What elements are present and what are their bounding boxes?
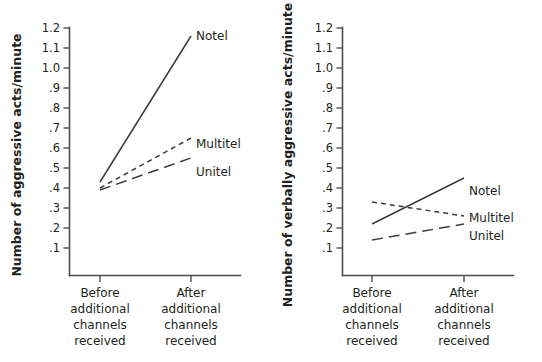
right-label-multitel: Multitel xyxy=(469,211,514,225)
panel-verbal-aggression: Number of verbally aggressive acts/minut… xyxy=(271,0,542,362)
left-xcat-before-line1: Before xyxy=(80,286,119,300)
right-ytick-label: .1 xyxy=(322,241,333,255)
right-series-labels: Notel Multitel Unitel xyxy=(469,184,514,243)
left-ytick-label: .9 xyxy=(49,81,60,95)
left-xcat-before-line4: received xyxy=(74,334,125,348)
left-ytick-label: .1 xyxy=(49,241,60,255)
left-ytick-label: 1.2 xyxy=(42,21,60,35)
left-xcat-after-line2: additional xyxy=(161,302,221,316)
right-ytick-label: .3 xyxy=(322,201,333,215)
right-ytick-label: 1.2 xyxy=(315,21,333,35)
left-x-ticks xyxy=(100,276,191,283)
right-x-ticks xyxy=(372,276,464,283)
right-ytick-label: .5 xyxy=(322,161,333,175)
right-xcat-before-line1: Before xyxy=(352,286,391,300)
left-ytick-label: 1.1 xyxy=(42,41,60,55)
right-xcat-after-line1: After xyxy=(450,286,479,300)
right-ytick-label: .6 xyxy=(322,141,333,155)
left-ytick-label: .6 xyxy=(49,141,60,155)
left-xcat-after-line3: channels xyxy=(164,318,218,332)
left-ytick-label: .7 xyxy=(49,121,60,135)
right-y-ticks xyxy=(337,28,343,248)
figure-two-panel-line-charts: Number of aggressive acts/minute xyxy=(0,0,542,362)
left-y-ticks xyxy=(64,28,70,248)
left-ytick-label: .4 xyxy=(49,181,60,195)
left-y-tick-labels: 1.2 1.1 1.0 .9 .8 .7 .6 .5 .4 .3 .2 .1 xyxy=(42,21,60,255)
right-ytick-label: .4 xyxy=(322,181,333,195)
right-ytick-label: .7 xyxy=(322,121,333,135)
right-series-group xyxy=(372,178,464,240)
right-ytick-label: .8 xyxy=(322,101,333,115)
left-label-multitel: Multitel xyxy=(196,137,241,151)
right-series-unitel-line xyxy=(372,224,464,240)
right-xcat-after-line4: received xyxy=(438,334,489,348)
right-label-unitel: Unitel xyxy=(469,229,504,243)
right-y-tick-labels: 1.2 1.1 1.0 .9 .8 .7 .6 .5 .4 .3 .2 .1 xyxy=(315,21,333,255)
left-series-unitel-line xyxy=(100,158,191,190)
right-x-category-labels: Before additional channels received Afte… xyxy=(342,286,494,348)
left-label-notel: Notel xyxy=(196,29,228,43)
left-x-category-labels: Before additional channels received Afte… xyxy=(70,286,221,348)
right-ytick-label: 1.1 xyxy=(315,41,333,55)
left-ytick-label: .8 xyxy=(49,101,60,115)
right-chart-svg: Number of verbally aggressive acts/minut… xyxy=(271,0,542,362)
left-y-axis-title: Number of aggressive acts/minute xyxy=(9,33,24,276)
left-ytick-label: 1.0 xyxy=(42,61,60,75)
right-series-notel-line xyxy=(372,178,464,224)
left-series-notel-line xyxy=(100,36,191,182)
right-xcat-before-line3: channels xyxy=(345,318,399,332)
right-xcat-after-line3: channels xyxy=(437,318,491,332)
right-ytick-label: 1.0 xyxy=(315,61,333,75)
right-xcat-after-line2: additional xyxy=(434,302,494,316)
right-ytick-label: .2 xyxy=(322,221,333,235)
left-ytick-label: .5 xyxy=(49,161,60,175)
left-chart-svg: Number of aggressive acts/minute xyxy=(0,0,271,362)
right-series-multitel-line xyxy=(372,202,464,216)
right-ytick-label: .9 xyxy=(322,81,333,95)
left-xcat-before-line2: additional xyxy=(70,302,130,316)
left-xcat-after-line1: After xyxy=(177,286,206,300)
left-xcat-after-line4: received xyxy=(165,334,216,348)
left-series-labels: Notel Multitel Unitel xyxy=(196,29,241,179)
right-xcat-before-line2: additional xyxy=(342,302,402,316)
left-series-multitel-line xyxy=(100,138,191,188)
right-label-notel: Notel xyxy=(469,184,501,198)
left-label-unitel: Unitel xyxy=(196,165,231,179)
right-y-axis-title: Number of verbally aggressive acts/minut… xyxy=(280,3,295,307)
left-xcat-before-line3: channels xyxy=(73,318,127,332)
right-xcat-before-line4: received xyxy=(346,334,397,348)
left-ytick-label: .3 xyxy=(49,201,60,215)
left-series-group xyxy=(100,36,191,190)
left-ytick-label: .2 xyxy=(49,221,60,235)
panel-physical-aggression: Number of aggressive acts/minute xyxy=(0,0,271,362)
